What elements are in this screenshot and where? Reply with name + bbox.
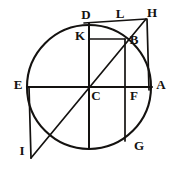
vertical-ha-line: [147, 19, 149, 90]
label-C: C: [91, 88, 100, 103]
label-L: L: [116, 6, 125, 21]
label-K: K: [75, 28, 86, 43]
label-H: H: [147, 5, 157, 20]
label-A: A: [156, 77, 166, 92]
vertical-ei-line: [29, 87, 31, 158]
label-E: E: [14, 77, 23, 92]
geometry-figure: D L H K B E A C F G I: [0, 0, 179, 169]
label-I: I: [19, 143, 24, 158]
label-D: D: [81, 7, 90, 22]
label-F: F: [130, 88, 138, 103]
label-B: B: [130, 32, 139, 47]
diagram-canvas: D L H K B E A C F G I: [0, 0, 179, 169]
label-G: G: [134, 138, 144, 153]
